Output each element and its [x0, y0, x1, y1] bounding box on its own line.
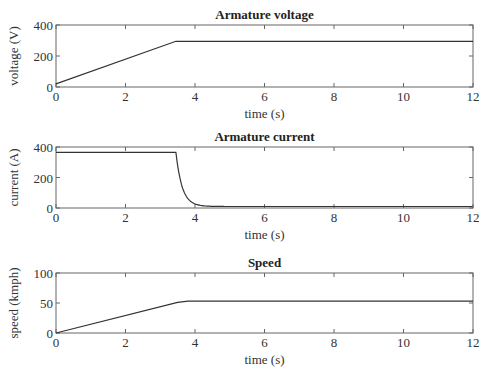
- y-tick-label: 0: [47, 326, 54, 341]
- x-tick-label: 6: [261, 89, 268, 104]
- x-tick-label: 0: [53, 89, 60, 104]
- chart-title: Armature current: [214, 129, 315, 144]
- series-line-voltage: [56, 41, 473, 84]
- x-tick-label: 4: [192, 210, 199, 225]
- x-tick-label: 10: [397, 335, 410, 350]
- x-tick-label: 12: [467, 89, 480, 104]
- x-tick-label: 10: [397, 89, 410, 104]
- x-tick-label: 4: [192, 335, 199, 350]
- x-tick-label: 8: [331, 210, 338, 225]
- x-tick-label: 2: [122, 210, 129, 225]
- y-tick-label: 50: [40, 296, 53, 311]
- y-axis-label: voltage (V): [6, 26, 21, 86]
- chart-speed: Speed024681012050100time (s)speed (kmph): [6, 255, 480, 367]
- x-tick-label: 12: [467, 335, 480, 350]
- plot-area: [56, 147, 473, 208]
- x-axis-label: time (s): [244, 227, 284, 242]
- plot-area: [56, 273, 473, 333]
- x-tick-label: 2: [122, 89, 129, 104]
- y-tick-label: 400: [34, 18, 54, 33]
- y-tick-label: 200: [34, 49, 54, 64]
- chart-current: Armature current0246810120200400time (s)…: [6, 129, 480, 242]
- y-axis-label: current (A): [6, 148, 21, 206]
- x-tick-label: 12: [467, 210, 480, 225]
- chart-voltage: Armature voltage0246810120200400time (s)…: [6, 7, 480, 121]
- figure: Armature voltage0246810120200400time (s)…: [0, 0, 492, 380]
- x-tick-label: 10: [397, 210, 410, 225]
- y-tick-label: 100: [34, 266, 54, 281]
- x-tick-label: 6: [261, 210, 268, 225]
- x-tick-label: 2: [122, 335, 129, 350]
- x-tick-label: 6: [261, 335, 268, 350]
- plot-area: [56, 25, 473, 87]
- series-line-current: [56, 152, 473, 206]
- y-tick-label: 200: [34, 171, 54, 186]
- x-tick-label: 8: [331, 335, 338, 350]
- series-line-speed: [56, 301, 473, 333]
- x-tick-label: 8: [331, 89, 338, 104]
- y-tick-label: 0: [47, 201, 54, 216]
- chart-title: Speed: [248, 255, 282, 270]
- y-tick-label: 0: [47, 80, 54, 95]
- y-axis-label: speed (kmph): [6, 267, 21, 338]
- x-axis-label: time (s): [244, 352, 284, 367]
- x-tick-label: 4: [192, 89, 199, 104]
- y-tick-label: 400: [34, 140, 54, 155]
- x-axis-label: time (s): [244, 106, 284, 121]
- x-tick-label: 0: [53, 210, 60, 225]
- chart-title: Armature voltage: [215, 7, 314, 22]
- x-tick-label: 0: [53, 335, 60, 350]
